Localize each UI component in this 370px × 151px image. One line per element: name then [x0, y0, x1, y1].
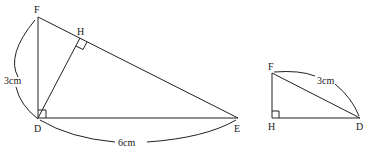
side-length-FD: 3cm [4, 75, 21, 86]
point-label-F: F [268, 61, 274, 72]
point-label-F: F [34, 4, 40, 15]
arc-3cm-bottom [16, 87, 38, 119]
left-triangle-figure: F H D E 3cm 6cm [4, 4, 240, 148]
point-label-E: E [234, 123, 240, 134]
arc-3cm-top [14, 20, 35, 77]
right-angle-mark-H [272, 111, 279, 118]
segment-FE [38, 17, 238, 118]
arc-3cm-left [274, 72, 315, 77]
arc-6cm-left [40, 120, 115, 142]
point-label-H: H [77, 26, 84, 37]
side-length-DE: 6cm [118, 137, 135, 148]
geometry-diagram: F H D E 3cm 6cm F H D 3cm [0, 0, 370, 151]
point-label-D: D [356, 121, 363, 132]
side-length-FD: 3cm [317, 75, 334, 86]
arc-6cm-right [147, 120, 236, 142]
right-triangle-figure: F H D 3cm [268, 61, 363, 132]
point-label-D: D [34, 123, 41, 134]
point-label-H: H [268, 121, 275, 132]
segment-DH [38, 38, 80, 118]
